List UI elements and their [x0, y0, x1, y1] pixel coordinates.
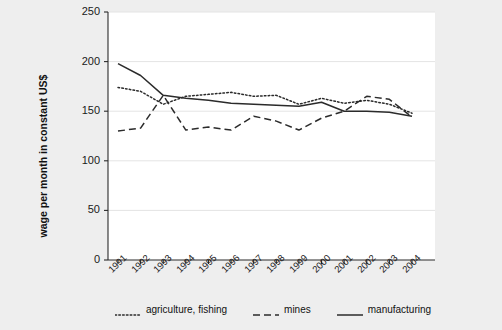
axis-lines — [104, 12, 435, 264]
legend-entry: mines — [253, 304, 311, 315]
y-axis-title: wage per month in constant US$ — [37, 61, 49, 251]
data-series-layer — [118, 64, 412, 131]
legend-label: manufacturing — [368, 304, 431, 315]
chart-legend: agriculture, fishingminesmanufacturing — [108, 300, 438, 318]
chart-figure: 050100150200250 199119921993199419951996… — [0, 0, 502, 330]
y-tick-label: 200 — [66, 55, 100, 67]
y-tick-label: 100 — [66, 154, 100, 166]
y-tick-label: 50 — [66, 203, 100, 215]
gridlines — [108, 12, 435, 210]
y-tick-label: 150 — [66, 104, 100, 116]
legend-entry: agriculture, fishing — [115, 304, 227, 315]
legend-swatch-solid — [337, 305, 363, 313]
legend-swatch-dashed — [253, 305, 279, 313]
legend-label: mines — [284, 304, 311, 315]
legend-swatch-dotted — [115, 305, 141, 313]
y-tick-label: 0 — [66, 253, 100, 265]
legend-label: agriculture, fishing — [146, 304, 227, 315]
legend-entry: manufacturing — [337, 304, 431, 315]
series-line-agriculture-fishing — [118, 87, 412, 113]
y-tick-label: 250 — [66, 5, 100, 17]
series-line-manufacturing — [118, 64, 412, 117]
